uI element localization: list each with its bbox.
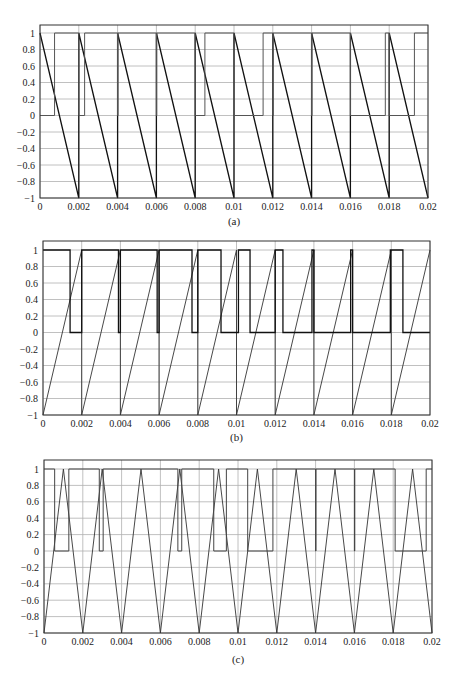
y-tick-label: 0.2 (23, 94, 36, 105)
y-tick-label: −0.6 (21, 595, 39, 606)
y-tick-label: 0.6 (23, 61, 36, 72)
y-tick-label: 0.8 (27, 480, 40, 491)
x-tick-label: 0.014 (303, 418, 326, 429)
x-tick-label: 0.018 (382, 636, 405, 647)
x-tick-label: 0.006 (145, 201, 168, 212)
pwm-waveform-figure: 10.80.60.40.20−0.2−0.4−0.6−0.8−100.0020.… (0, 0, 464, 677)
x-tick-label: 0.004 (106, 201, 129, 212)
x-tick-label: 0 (41, 418, 46, 429)
y-tick-label: −1 (28, 628, 39, 639)
x-tick-label: 0.02 (421, 418, 439, 429)
y-tick-label: 0.2 (27, 529, 40, 540)
y-tick-label: 0.4 (26, 294, 39, 305)
x-tick-label: 0.01 (228, 418, 246, 429)
x-tick-label: 0.018 (378, 201, 401, 212)
y-tick-label: −0.2 (20, 344, 38, 355)
panel-caption: (b) (230, 431, 243, 444)
y-tick-label: −0.6 (17, 160, 35, 171)
y-tick-label: −1 (27, 410, 38, 421)
y-tick-label: 1 (34, 464, 39, 475)
x-tick-label: 0.01 (229, 636, 247, 647)
y-tick-label: 0.4 (23, 77, 36, 88)
y-tick-label: −0.2 (17, 127, 35, 138)
x-tick-label: 0.008 (184, 201, 207, 212)
chart-panel-a: 10.80.60.40.20−0.2−0.4−0.6−0.8−100.0020.… (17, 25, 437, 228)
x-tick-label: 0.02 (423, 636, 441, 647)
x-tick-label: 0.006 (149, 636, 172, 647)
y-tick-label: −0.4 (17, 143, 35, 154)
x-tick-label: 0.018 (380, 418, 403, 429)
x-tick-label: 0 (42, 636, 47, 647)
chart-panel-b: 10.80.60.40.20−0.2−0.4−0.6−0.8−100.0020.… (20, 241, 439, 444)
y-tick-label: 1 (33, 245, 38, 256)
y-tick-label: −0.2 (21, 562, 39, 573)
x-tick-label: 0.002 (68, 201, 91, 212)
x-tick-label: 0.014 (300, 201, 323, 212)
x-tick-label: 0.012 (264, 418, 287, 429)
x-tick-label: 0.006 (148, 418, 171, 429)
x-tick-label: 0.002 (70, 418, 93, 429)
panel-caption: (c) (232, 653, 245, 666)
y-tick-label: 0.2 (26, 311, 39, 322)
x-tick-label: 0.01 (225, 201, 243, 212)
y-tick-label: −0.8 (20, 393, 38, 404)
x-tick-label: 0.004 (110, 636, 133, 647)
y-tick-label: 0.8 (26, 261, 39, 272)
y-tick-label: 0.6 (26, 278, 39, 289)
y-tick-label: 0 (34, 546, 39, 557)
y-tick-label: −0.4 (21, 578, 39, 589)
x-tick-label: 0 (38, 201, 43, 212)
chart-panel-c: 10.80.60.40.20−0.2−0.4−0.6−0.8−100.0020.… (21, 460, 441, 666)
x-tick-label: 0.016 (339, 201, 362, 212)
x-tick-label: 0.012 (266, 636, 289, 647)
x-tick-label: 0.004 (109, 418, 132, 429)
y-tick-label: 0.8 (23, 44, 36, 55)
y-tick-label: −0.8 (21, 611, 39, 622)
x-tick-label: 0.008 (187, 418, 210, 429)
y-tick-label: 0.6 (27, 496, 40, 507)
y-tick-label: 0 (30, 110, 35, 121)
y-tick-label: −0.8 (17, 176, 35, 187)
x-tick-label: 0.016 (341, 418, 364, 429)
x-tick-label: 0.008 (188, 636, 211, 647)
series-pwm-output (40, 33, 428, 116)
y-tick-label: 0 (33, 327, 38, 338)
panel-caption: (a) (228, 215, 241, 228)
y-tick-label: 0.4 (27, 513, 40, 524)
y-tick-label: −1 (24, 193, 35, 204)
y-tick-label: 1 (30, 28, 35, 39)
x-tick-label: 0.02 (419, 201, 437, 212)
x-tick-label: 0.012 (262, 201, 285, 212)
y-tick-label: −0.6 (20, 377, 38, 388)
y-tick-label: −0.4 (20, 360, 38, 371)
x-tick-label: 0.002 (72, 636, 95, 647)
x-tick-label: 0.016 (343, 636, 366, 647)
x-tick-label: 0.014 (304, 636, 327, 647)
grid (44, 460, 432, 633)
